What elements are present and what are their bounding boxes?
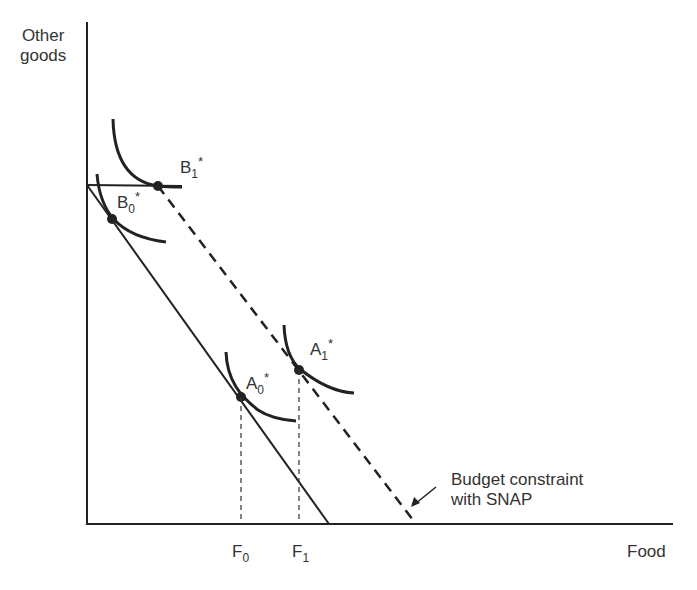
diagram-canvas: [0, 0, 697, 590]
tick-f1-sub: 1: [302, 551, 309, 565]
label-a1: A1*: [310, 340, 333, 361]
y-axis-label: Other goods: [20, 26, 66, 66]
point-b0: [107, 214, 117, 224]
label-a0-sup: *: [264, 370, 269, 385]
tick-label-f1: F1: [292, 542, 309, 563]
label-b1-sup: *: [198, 154, 203, 169]
indifference-curve-b1: [113, 119, 182, 187]
snap-annotation-line2: with SNAP: [451, 490, 583, 510]
budget-line-original: [87, 185, 329, 524]
budget-line-snap-dashed: [158, 186, 416, 524]
label-b1: B1*: [180, 158, 203, 179]
y-axis-label-line2: goods: [20, 46, 66, 66]
label-b0-sub: 0: [128, 202, 135, 216]
annotation-arrow-head: [411, 497, 420, 507]
label-a1-sub: 1: [321, 349, 328, 363]
x-axis-label: Food: [627, 542, 666, 562]
snap-annotation-line1: Budget constraint: [451, 470, 583, 490]
y-axis-label-line1: Other: [20, 26, 66, 46]
label-a0-base: A: [246, 374, 257, 393]
tick-f1-base: F: [292, 542, 302, 561]
label-a1-base: A: [310, 340, 321, 359]
point-b1: [153, 181, 163, 191]
tick-f0-sub: 0: [242, 551, 249, 565]
label-b1-sub: 1: [191, 167, 198, 181]
label-b1-base: B: [180, 158, 191, 177]
tick-label-f0: F0: [232, 542, 249, 563]
label-b0: B0*: [117, 193, 140, 214]
tick-f0-base: F: [232, 542, 242, 561]
label-b0-sup: *: [135, 189, 140, 204]
snap-annotation: Budget constraint with SNAP: [451, 470, 583, 510]
label-b0-base: B: [117, 193, 128, 212]
label-a0: A0*: [246, 374, 269, 395]
label-a0-sub: 0: [257, 383, 264, 397]
label-a1-sup: *: [328, 336, 333, 351]
